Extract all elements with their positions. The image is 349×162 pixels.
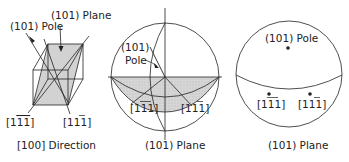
crystallography-diagram: (101) Plane (101) Pole [111] [111] [100]… (0, 0, 349, 162)
direction-label-11-1: [111] (181, 102, 209, 114)
pole-label-line1: (101) (121, 41, 149, 53)
direction-1-11-point (267, 92, 271, 96)
panel-caption: (101) Plane (145, 139, 205, 151)
pole-label-line2: Pole (125, 54, 147, 66)
direction-label-11-1: [111] (298, 98, 326, 110)
direction-11-1-point (308, 92, 312, 96)
projection-panel: (101) Pole [111] [111] (101) Plane (108, 8, 222, 151)
pole-101-point (286, 46, 290, 50)
pole-label: (101) Pole (10, 20, 63, 32)
direction-label-11-1: [111] (63, 116, 91, 128)
direction-label-1-11: [111] (130, 102, 158, 114)
direction-label-1-11: [111] (257, 98, 285, 110)
plane-101-great-circle (236, 75, 342, 89)
direction-label-1-11: [111] (6, 116, 34, 128)
pole-label: (101) Pole (265, 32, 318, 44)
stereogram-panel: (101) Pole [111] [111] (101) Plane (236, 21, 342, 151)
panel-caption: [100] Direction (17, 139, 96, 151)
cube-panel: (101) Plane (101) Pole [111] [111] [100]… (6, 9, 111, 151)
panel-caption: (101) Plane (268, 139, 328, 151)
